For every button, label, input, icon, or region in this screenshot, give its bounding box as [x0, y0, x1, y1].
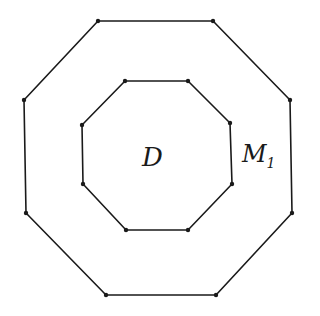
vertex-dot	[24, 211, 28, 215]
vertex-dot	[211, 19, 215, 23]
vertex-dot	[214, 293, 218, 297]
region-label-subscript: 1	[267, 155, 276, 171]
region-label-m1: M1	[242, 140, 276, 171]
vertex-dot	[186, 79, 190, 83]
vertex-dot	[124, 228, 128, 232]
region-label-d: D	[142, 142, 163, 172]
vertex-dot	[22, 98, 26, 102]
vertex-dot	[104, 293, 108, 297]
vertex-dot	[81, 182, 85, 186]
vertex-dot	[186, 228, 190, 232]
vertex-dot	[228, 121, 232, 125]
vertex-dot	[288, 98, 292, 102]
vertex-dot	[230, 182, 234, 186]
vertex-dot	[290, 211, 294, 215]
region-label-m: M	[242, 140, 267, 168]
vertex-dot	[123, 79, 127, 83]
vertex-dot	[96, 19, 100, 23]
vertex-dot	[80, 123, 84, 127]
